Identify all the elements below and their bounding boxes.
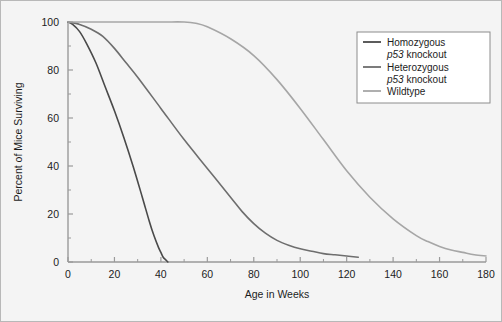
x-tick-label: 100 [291, 268, 309, 280]
y-tick-label: 60 [47, 112, 59, 124]
x-tick-label: 60 [201, 268, 213, 280]
legend-gene-name: p53 [386, 49, 404, 60]
legend-label-2: Wildtype [387, 86, 426, 97]
legend-gene-name: p53 [386, 74, 404, 85]
y-tick-label: 100 [41, 16, 59, 28]
legend-label-1: Heterozygous [387, 62, 449, 73]
y-tick-label: 80 [47, 64, 59, 76]
x-tick-label: 160 [431, 268, 449, 280]
x-tick-label: 180 [477, 268, 495, 280]
x-tick-label: 0 [65, 268, 71, 280]
y-tick-label: 0 [53, 256, 59, 268]
legend-label-0: Homozygous [387, 37, 445, 48]
legend[interactable]: Homozygousp53 knockoutHeterozygousp53 kn… [357, 32, 490, 103]
chart-figure: 020406080100120140160180020406080100Age … [0, 0, 502, 322]
y-tick-label: 40 [47, 160, 59, 172]
x-tick-label: 120 [338, 268, 356, 280]
survival-curve-chart: 020406080100120140160180020406080100Age … [0, 0, 502, 322]
legend-label-rest: knockout [404, 74, 447, 85]
curve-series-1 [68, 22, 358, 257]
legend-label-0-line2: p53 knockout [386, 49, 447, 60]
x-axis-title: Age in Weeks [245, 288, 310, 300]
curve-series-0 [68, 22, 168, 262]
x-tick-label: 140 [384, 268, 402, 280]
legend-label-1-line2: p53 knockout [386, 74, 447, 85]
y-axis-title: Percent of Mice Surviving [12, 82, 24, 201]
x-tick-label: 40 [155, 268, 167, 280]
x-tick-label: 80 [248, 268, 260, 280]
y-tick-label: 20 [47, 208, 59, 220]
legend-label-rest: knockout [404, 49, 447, 60]
x-tick-label: 20 [109, 268, 121, 280]
